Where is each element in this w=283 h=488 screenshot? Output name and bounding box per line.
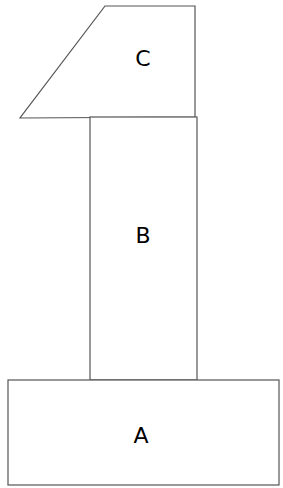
block-c: C: [20, 6, 195, 118]
stacked-blocks-diagram: C B A: [0, 0, 283, 488]
block-b: B: [90, 117, 197, 380]
block-a: A: [8, 380, 279, 485]
block-a-label: A: [133, 423, 148, 448]
block-b-label: B: [135, 223, 150, 248]
block-c-shape: [20, 6, 195, 118]
block-c-label: C: [135, 46, 150, 71]
block-b-shape: [90, 117, 197, 380]
